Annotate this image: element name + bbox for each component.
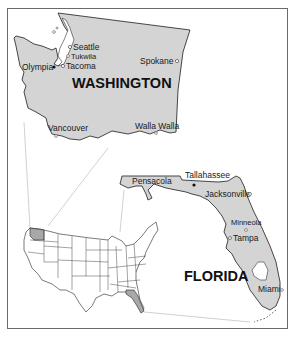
- florida-keys: [254, 310, 276, 322]
- svg-text:Vancouver: Vancouver: [48, 123, 88, 133]
- city-tacoma[interactable]: Tacoma: [61, 61, 96, 71]
- city-pensacola[interactable]: Pensacola: [132, 176, 172, 186]
- capital-dot-icon: [192, 183, 195, 186]
- island: [56, 27, 58, 29]
- city-seattle[interactable]: Seattle: [68, 42, 99, 52]
- open-circle-marker-icon: [67, 55, 70, 58]
- city-miami[interactable]: Miami: [258, 284, 283, 294]
- florida-label: FLORIDA: [184, 268, 249, 284]
- svg-text:Tampa: Tampa: [233, 233, 259, 243]
- locator-map: WASHINGTON Seattle Tukwila Tacoma Olympi…: [0, 0, 293, 337]
- svg-text:Tukwila: Tukwila: [71, 52, 97, 61]
- open-circle-marker-icon: [175, 59, 178, 62]
- open-circle-marker-icon: [155, 132, 158, 135]
- svg-text:Olympia: Olympia: [22, 62, 53, 72]
- svg-text:Spokane: Spokane: [140, 56, 174, 66]
- open-circle-marker-icon: [61, 64, 64, 67]
- usa-florida-highlight: [126, 290, 144, 313]
- svg-text:Jacksonville: Jacksonville: [205, 189, 251, 199]
- usa-inset-map: [24, 222, 158, 313]
- washington-label: WASHINGTON: [72, 75, 172, 91]
- city-jacksonville[interactable]: Jacksonville: [205, 189, 252, 199]
- svg-text:Miami: Miami: [258, 284, 281, 294]
- svg-text:Walla Walla: Walla Walla: [135, 121, 180, 131]
- open-circle-marker-icon: [229, 237, 232, 240]
- svg-text:Seattle: Seattle: [73, 42, 100, 52]
- svg-text:Tacoma: Tacoma: [66, 61, 96, 71]
- washington-map[interactable]: WASHINGTON Seattle Tukwila Tacoma Olympi…: [14, 13, 190, 140]
- svg-text:Minneola: Minneola: [231, 218, 262, 227]
- open-circle-marker-icon: [249, 193, 252, 196]
- open-circle-marker-icon: [55, 135, 58, 138]
- open-circle-marker-icon: [281, 289, 284, 292]
- island: [53, 31, 56, 34]
- usa-washington-highlight: [30, 228, 44, 240]
- city-tampa[interactable]: Tampa: [229, 233, 259, 243]
- svg-text:Pensacola: Pensacola: [132, 176, 172, 186]
- city-tukwila[interactable]: Tukwila: [67, 52, 97, 61]
- city-olympia[interactable]: Olympia: [22, 62, 56, 72]
- city-spokane[interactable]: Spokane: [140, 56, 179, 66]
- open-circle-marker-icon: [245, 229, 248, 232]
- svg-text:Tallahassee: Tallahassee: [185, 170, 230, 180]
- open-circle-marker-icon: [68, 45, 71, 48]
